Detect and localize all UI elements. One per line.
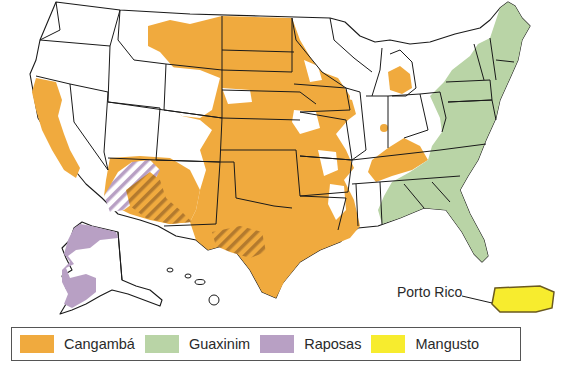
guaxinim-swatch xyxy=(145,335,179,353)
legend-label: Guaxinim xyxy=(189,336,250,352)
puerto-rico xyxy=(462,286,554,312)
legend-item-raposas: Raposas xyxy=(260,335,361,353)
legend-item-cangamba: Cangambá xyxy=(20,335,135,353)
legend-item-mangusto: Mangusto xyxy=(371,335,479,353)
legend-label: Cangambá xyxy=(64,336,135,352)
hawaii xyxy=(167,268,219,305)
cangamba-swatch xyxy=(20,335,54,353)
map-legend: Cangambá Guaxinim Raposas Mangusto xyxy=(11,327,521,361)
raposas-swatch xyxy=(260,335,294,353)
legend-label: Raposas xyxy=(304,336,361,352)
mangusto-swatch xyxy=(371,335,405,353)
legend-item-guaxinim: Guaxinim xyxy=(145,335,250,353)
legend-label: Mangusto xyxy=(415,336,479,352)
us-rabies-reservoir-map xyxy=(0,0,566,372)
puerto-rico-label: Porto Rico xyxy=(397,284,462,300)
alaska xyxy=(60,222,162,314)
